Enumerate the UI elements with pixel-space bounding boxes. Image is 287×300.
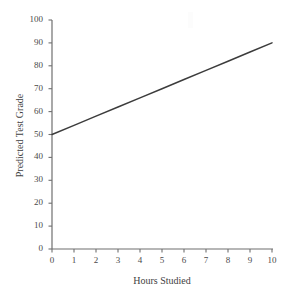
y-axis-tick-label: 90 <box>21 38 43 47</box>
y-axis-tick-label: 0 <box>21 244 43 253</box>
data-series-line <box>52 43 272 135</box>
x-axis-tick-label: 3 <box>108 256 128 265</box>
data-series-group <box>52 43 272 135</box>
chart-container: 0102030405060708090100 012345678910 Pred… <box>0 0 287 300</box>
x-axis-tick-label: 2 <box>86 256 106 265</box>
x-axis-tick-label: 9 <box>240 256 260 265</box>
y-axis-tick-label: 100 <box>21 15 43 24</box>
x-axis-tick-label: 8 <box>218 256 238 265</box>
x-axis-tick-label: 7 <box>196 256 216 265</box>
x-axis-tick-label: 0 <box>42 256 62 265</box>
x-axis-tick-label: 5 <box>152 256 172 265</box>
plot-area <box>0 0 287 300</box>
x-axis-tick-label: 6 <box>174 256 194 265</box>
x-axis-title: Hours Studied <box>52 275 272 286</box>
x-axis-tick-label: 10 <box>262 256 282 265</box>
x-axis-tick-label: 1 <box>64 256 84 265</box>
y-axis-title: Predicted Test Grade <box>14 66 25 206</box>
y-axis-tick-label: 10 <box>21 221 43 230</box>
x-axis-tick-label: 4 <box>130 256 150 265</box>
